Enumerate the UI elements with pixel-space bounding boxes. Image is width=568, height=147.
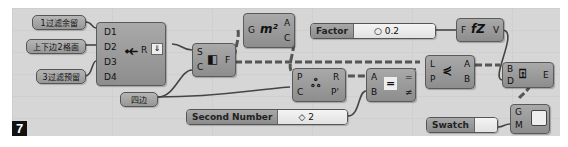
panel-text: 上下边2格面: [33, 41, 78, 52]
slider-track[interactable]: ◇ 2: [278, 110, 347, 124]
output-not-equal: ≠: [405, 87, 413, 97]
area-icon: m²: [260, 22, 278, 36]
equals-icon: =: [384, 77, 397, 90]
output-r: R: [333, 72, 339, 82]
slider-track[interactable]: ○ 0.2: [354, 24, 435, 38]
node-scale[interactable]: F fZ V: [456, 18, 504, 42]
output-b: B: [464, 74, 470, 84]
swatch[interactable]: Swatch: [426, 117, 498, 133]
panel-filter-keep[interactable]: 1过滤余留: [32, 15, 86, 30]
node-extrude[interactable]: B D ⍐ E: [502, 62, 554, 88]
input-c: C: [197, 62, 203, 72]
input-g: G: [515, 107, 522, 117]
input-p: P: [430, 74, 435, 84]
slider-value: 2: [308, 112, 314, 122]
node-pull-point[interactable]: P C ஃ R P': [292, 68, 346, 102]
input-d4: D4: [104, 72, 117, 82]
input-d: D: [507, 76, 514, 86]
output-a: A: [464, 59, 470, 69]
node-area[interactable]: G m² A C: [243, 13, 295, 48]
swatch-label: Swatch: [427, 118, 475, 132]
slider-knob-icon[interactable]: ○: [374, 26, 385, 36]
figure-number-badge: 7: [12, 121, 27, 136]
slider-value: 0.2: [385, 26, 399, 36]
panel-text: 四边: [131, 94, 147, 105]
panel-four-edges[interactable]: 四边: [120, 92, 158, 107]
slider-factor[interactable]: Factor ○ 0.2: [310, 23, 436, 39]
output-equal: =: [405, 72, 413, 82]
input-d1: D1: [104, 27, 117, 37]
node-cull-pattern[interactable]: L P ⋞ A B: [425, 55, 475, 89]
input-b: B: [371, 87, 377, 97]
node-custom-preview[interactable]: G M: [510, 104, 550, 134]
input-l: L: [430, 59, 435, 69]
output-e: E: [543, 70, 549, 80]
input-a: A: [371, 72, 377, 82]
pull-point-icon: ஃ: [311, 76, 320, 91]
node-equality[interactable]: A B = = ≠: [366, 68, 416, 102]
panel-filter-reserve[interactable]: 3过滤预留: [36, 69, 86, 84]
output-c: C: [284, 33, 290, 43]
split-list-icon: ⋞: [442, 63, 452, 77]
output-v: V: [493, 25, 499, 35]
slider-label: Factor: [311, 24, 354, 38]
preview-icon: [531, 110, 547, 126]
merge-icon: ⤝: [125, 41, 138, 60]
output-p-prime: P': [331, 87, 339, 97]
slider-label: Second Number: [187, 110, 278, 124]
scale-icon: fZ: [471, 22, 485, 36]
panel-top-bottom-cells[interactable]: 上下边2格面: [26, 39, 86, 54]
input-p: P: [297, 72, 302, 82]
input-g: G: [248, 25, 255, 35]
input-c: C: [297, 87, 303, 97]
input-f: F: [461, 25, 466, 35]
swatch-color[interactable]: [475, 118, 497, 132]
panel-text: 3过滤预留: [42, 71, 79, 82]
graft-icon[interactable]: ⇓: [151, 43, 163, 55]
extrude-icon: ⍐: [519, 67, 526, 81]
output-f: F: [225, 55, 230, 65]
panel-text: 1过滤余留: [40, 17, 77, 28]
input-d3: D3: [104, 57, 117, 67]
output-r: R: [141, 45, 147, 55]
node-dispatch[interactable]: D1 D2 D3 D4 ⤝ R ⇓: [96, 22, 166, 86]
input-d2: D2: [104, 42, 117, 52]
input-m: M: [515, 120, 523, 130]
slider-second-number[interactable]: Second Number ◇ 2: [186, 109, 348, 125]
output-a: A: [284, 18, 290, 28]
node-explode[interactable]: S C ◧ F: [192, 43, 236, 77]
slider-knob-icon[interactable]: ◇: [298, 112, 308, 122]
input-s: S: [197, 47, 203, 57]
surface-split-icon: ◧: [207, 52, 218, 66]
input-b: B: [507, 64, 513, 74]
